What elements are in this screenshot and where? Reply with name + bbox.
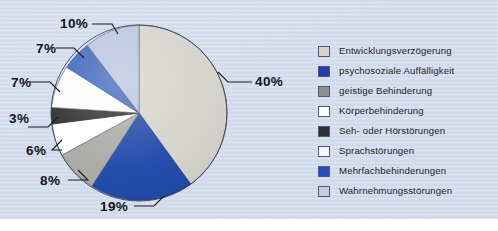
legend-item-koerperbehinderung[interactable]: Körperbehinderung (318, 101, 490, 121)
legend-item-sprachstoerungen[interactable]: Sprachstörungen (318, 141, 490, 161)
legend-swatch-seh-oder-hoerstoerungen (318, 126, 330, 137)
pct-label-7-sprach: 7% (11, 76, 31, 90)
legend-label-koerperbehinderung: Körperbehinderung (339, 106, 424, 116)
pct-label-8: 8% (40, 174, 60, 188)
pct-label-6: 6% (26, 144, 46, 158)
legend-swatch-geistige-behinderung (318, 86, 330, 97)
pct-label-40: 40% (255, 75, 283, 89)
legend-swatch-wahrnehmungsstoerungen (318, 186, 330, 197)
legend-item-seh-oder-hoerstoerungen[interactable]: Seh- oder Hörstörungen (318, 121, 490, 141)
legend-item-geistige-behinderung[interactable]: geistige Behinderung (318, 81, 490, 101)
chart-legend: Entwicklungsverzögerung psychosoziale Au… (318, 41, 490, 201)
legend-label-geistige-behinderung: geistige Behinderung (339, 86, 432, 96)
legend-label-seh-oder-hoerstoerungen: Seh- oder Hörstörungen (339, 126, 445, 136)
legend-label-sprachstoerungen: Sprachstörungen (339, 146, 414, 156)
pct-label-19: 19% (100, 200, 128, 214)
legend-swatch-koerperbehinderung (318, 106, 330, 117)
legend-label-mehrfachbehinderungen: Mehrfachbehinderungen (339, 166, 446, 176)
legend-label-entwicklungsverzoegerung: Entwicklungsverzögerung (339, 46, 452, 56)
legend-swatch-mehrfachbehinderungen (318, 166, 330, 177)
legend-swatch-sprachstoerungen (318, 146, 330, 157)
legend-swatch-psychosoziale-auffaelligkeit (318, 66, 330, 77)
legend-item-wahrnehmungsstoerungen[interactable]: Wahrnehmungsstörungen (318, 181, 490, 201)
legend-item-entwicklungsverzoegerung[interactable]: Entwicklungsverzögerung (318, 41, 490, 61)
pct-label-7-mehrfach: 7% (36, 42, 56, 56)
legend-label-wahrnehmungsstoerungen: Wahrnehmungsstörungen (339, 186, 452, 196)
legend-item-psychosoziale-auffaelligkeit[interactable]: psychosoziale Auffälligkeit (318, 61, 490, 81)
leader-line-40 (218, 72, 252, 82)
pct-label-10: 10% (60, 17, 88, 31)
legend-label-psychosoziale-auffaelligkeit: psychosoziale Auffälligkeit (339, 66, 454, 76)
pct-label-3: 3% (9, 112, 29, 126)
pie-chart-figure: 40% 19% 8% 6% 3% 7% 7% 10% Entwicklungsv… (0, 0, 498, 231)
legend-swatch-entwicklungsverzoegerung (318, 46, 330, 57)
legend-item-mehrfachbehinderungen[interactable]: Mehrfachbehinderungen (318, 161, 490, 181)
